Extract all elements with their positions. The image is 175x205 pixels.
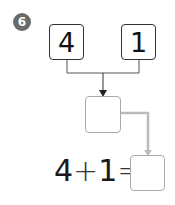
middle-answer-box[interactable]: [85, 96, 121, 133]
equation-operand-2: 1: [98, 153, 117, 188]
final-answer-box[interactable]: [130, 155, 165, 191]
equation-operand-1: 4: [54, 153, 73, 188]
equation-operator: +: [73, 153, 98, 188]
